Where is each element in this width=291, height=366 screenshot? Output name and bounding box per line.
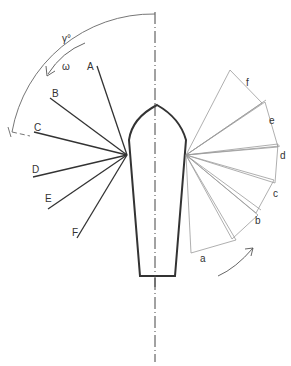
rudder-outline	[129, 105, 186, 276]
label-A: A	[87, 61, 94, 72]
arc-extension	[12, 132, 30, 136]
label-F: F	[72, 227, 78, 238]
label-f: f	[246, 77, 249, 88]
label-C: C	[34, 122, 41, 133]
label-E: E	[45, 193, 52, 204]
rotation-arrow	[218, 248, 253, 276]
arc-tick	[8, 127, 11, 137]
gamma-label: γ°	[62, 33, 71, 44]
label-a: a	[200, 253, 206, 264]
rudder-angle-diagram: γ° ω A B C D E F a b c d e f	[0, 0, 291, 366]
label-e: e	[269, 115, 275, 126]
omega-label: ω	[62, 61, 70, 72]
label-D: D	[32, 164, 39, 175]
label-c: c	[273, 188, 278, 199]
angle-arc	[12, 14, 155, 132]
left-fan	[33, 66, 127, 238]
label-b: b	[255, 215, 261, 226]
right-fan	[186, 70, 280, 253]
label-B: B	[52, 88, 59, 99]
label-d: d	[280, 150, 286, 161]
